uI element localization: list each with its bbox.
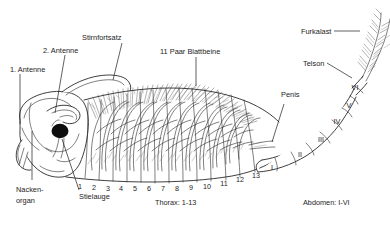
thorax-num-11: 11 xyxy=(220,179,227,188)
label-nackenorgan-line2: organ xyxy=(16,196,35,205)
abdomen-outline xyxy=(256,89,358,172)
thorax-num-5: 5 xyxy=(133,184,137,193)
thorax-num-1: 1 xyxy=(78,182,82,191)
thorax-num-8: 8 xyxy=(175,184,179,193)
abdomen-num-IV: IV xyxy=(334,117,341,126)
label-nackenorgan-line1: Nacken- xyxy=(16,185,44,194)
thorax-num-13: 13 xyxy=(252,171,260,180)
label-stirnfortsatz: Stirnfortsatz xyxy=(82,33,122,42)
label-furkalast: Furkalast xyxy=(301,27,331,36)
abdomen-num-III: III xyxy=(318,135,324,144)
thorax-num-4: 4 xyxy=(119,184,123,193)
label-antenne-2: 2. Antenne xyxy=(43,46,78,55)
thorax-num-7: 7 xyxy=(161,184,165,193)
thorax-num-10: 10 xyxy=(203,182,211,191)
label-telson: Telson xyxy=(303,59,324,68)
abdomen-num-II: II xyxy=(298,150,302,159)
thorax-num-6: 6 xyxy=(147,184,151,193)
caption-thorax: Thorax: 1-13 xyxy=(155,198,196,207)
thorax-num-3: 3 xyxy=(106,184,110,193)
leader-telson xyxy=(327,63,352,78)
label-stielauge: Stielauge xyxy=(79,192,110,201)
label-penis: Penis xyxy=(281,90,300,99)
leader-penis xyxy=(272,104,284,142)
abdomen-num-VI: VI xyxy=(352,83,359,92)
thorax-num-12: 12 xyxy=(236,175,244,184)
abdomen-num-V: V xyxy=(347,101,352,110)
label-antenne-1: 1. Antenne xyxy=(10,65,45,74)
compound-eye xyxy=(52,124,69,138)
abdomen-num-I: I xyxy=(271,163,273,172)
thorax-num-9: 9 xyxy=(189,183,193,192)
leader-stirnfortsatz xyxy=(113,43,122,80)
caption-abdomen: Abdomen: I-VI xyxy=(303,198,350,207)
thorax-num-2: 2 xyxy=(92,183,96,192)
region-captions: Thorax: 1-13 Abdomen: I-VI xyxy=(155,198,350,207)
anatomical-figure: 1. Antenne 2. Antenne Stirnfortsatz 11 P… xyxy=(0,0,390,230)
label-blattbeine: 11 Paar Blattbeine xyxy=(160,47,220,56)
